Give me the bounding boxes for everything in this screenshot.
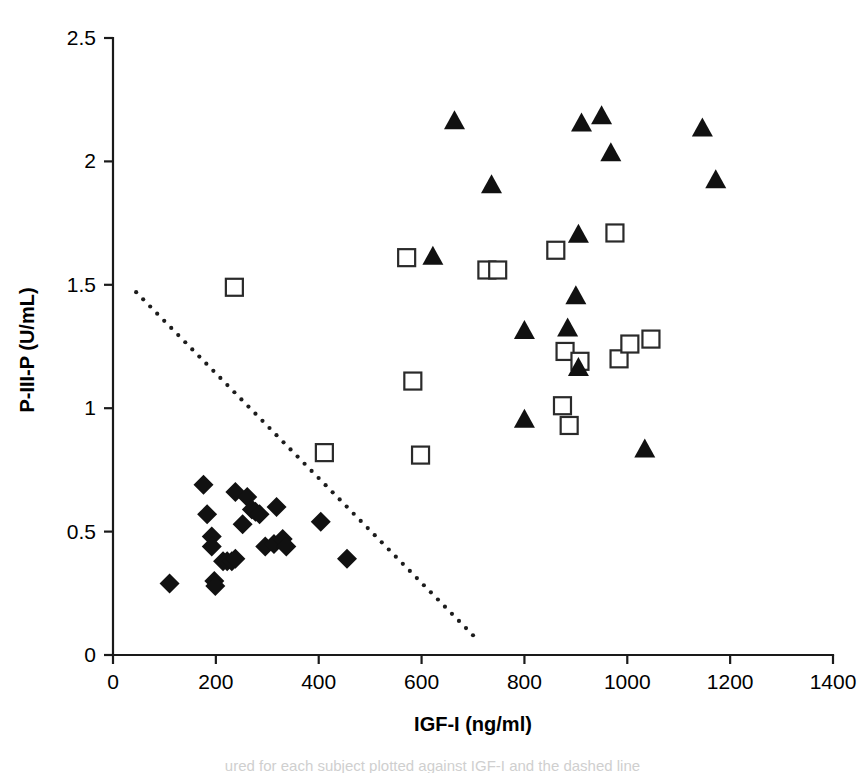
threshold-dot: [155, 312, 159, 316]
marker-square: [226, 279, 243, 296]
marker-diamond: [233, 514, 253, 534]
marker-triangle: [692, 118, 713, 137]
threshold-dot: [429, 590, 433, 594]
marker-diamond: [267, 497, 287, 517]
marker-triangle: [514, 320, 535, 339]
threshold-dot: [295, 454, 299, 458]
marker-triangle: [600, 142, 621, 161]
threshold-dot: [134, 290, 138, 294]
threshold-dot: [436, 597, 440, 601]
marker-square: [606, 224, 623, 241]
x-tick-labels: 0200400600800100012001400: [107, 670, 856, 693]
threshold-dot: [464, 626, 468, 630]
marker-triangle: [571, 113, 592, 132]
data-markers: [160, 105, 727, 596]
threshold-dot: [302, 462, 306, 466]
axis-ticks: [104, 38, 833, 664]
threshold-dot: [450, 612, 454, 616]
marker-triangle: [591, 105, 612, 124]
threshold-dot: [288, 447, 292, 451]
marker-square: [404, 373, 421, 390]
marker-triangle: [557, 317, 578, 336]
marker-triangle: [444, 110, 465, 129]
marker-square: [489, 261, 506, 278]
marker-square: [642, 331, 659, 348]
scatter-plot-figure: 0200400600800100012001400 00.511.522.5 I…: [0, 0, 865, 773]
marker-square: [412, 447, 429, 464]
threshold-dot: [415, 576, 419, 580]
x-tick-label: 1400: [810, 670, 857, 693]
y-tick-label: 0.5: [67, 520, 96, 543]
threshold-dot: [148, 304, 152, 308]
threshold-dot: [471, 633, 475, 637]
threshold-dot: [408, 569, 412, 573]
threshold-dot: [169, 326, 173, 330]
marker-triangle: [634, 438, 655, 457]
y-tick-label: 0: [84, 643, 96, 666]
threshold-dot: [380, 540, 384, 544]
plot-canvas: 0200400600800100012001400 00.511.522.5 I…: [0, 0, 865, 773]
threshold-dot: [338, 497, 342, 501]
threshold-dot: [190, 347, 194, 351]
marker-diamond: [311, 512, 331, 532]
threshold-dot: [260, 419, 264, 423]
threshold-dot: [183, 340, 187, 344]
x-tick-label: 800: [507, 670, 542, 693]
threshold-dot: [457, 619, 461, 623]
threshold-dot: [422, 583, 426, 587]
x-tick-label: 1000: [604, 670, 651, 693]
x-tick-label: 200: [198, 670, 233, 693]
marker-diamond: [160, 573, 180, 593]
threshold-dot: [366, 526, 370, 530]
y-axis-label: P-III-P (U/mL): [16, 287, 38, 412]
threshold-dot: [141, 297, 145, 301]
marker-triangle: [514, 409, 535, 428]
threshold-dot: [197, 354, 201, 358]
marker-triangle: [565, 285, 586, 304]
threshold-dot: [352, 512, 356, 516]
threshold-dot: [225, 383, 229, 387]
y-tick-label: 1.5: [67, 273, 96, 296]
x-axis-label: IGF-I (ng/ml): [414, 713, 532, 735]
threshold-dot: [345, 505, 349, 509]
threshold-dot: [211, 369, 215, 373]
threshold-dot: [281, 440, 285, 444]
marker-square: [398, 249, 415, 266]
x-tick-label: 400: [301, 670, 336, 693]
threshold-dot: [204, 362, 208, 366]
threshold-dot: [394, 555, 398, 559]
marker-triangle: [705, 169, 726, 188]
marker-triangle: [422, 246, 443, 265]
marker-square: [621, 336, 638, 353]
threshold-dot: [253, 412, 257, 416]
threshold-dot: [239, 397, 243, 401]
threshold-dot: [267, 426, 271, 430]
threshold-dot: [317, 476, 321, 480]
marker-square: [547, 242, 564, 259]
marker-diamond: [197, 504, 217, 524]
y-tick-label: 2: [84, 149, 96, 172]
threshold-dot: [359, 519, 363, 523]
threshold-dot: [401, 562, 405, 566]
marker-square: [561, 417, 578, 434]
x-tick-label: 1200: [707, 670, 754, 693]
threshold-dot: [309, 469, 313, 473]
threshold-dot: [443, 605, 447, 609]
threshold-dot: [232, 390, 236, 394]
marker-triangle: [481, 174, 502, 193]
threshold-dot: [331, 490, 335, 494]
threshold-dot: [373, 533, 377, 537]
y-tick-labels: 00.511.522.5: [67, 26, 96, 666]
x-tick-label: 0: [107, 670, 119, 693]
y-tick-label: 2.5: [67, 26, 96, 49]
threshold-dot: [387, 547, 391, 551]
x-tick-label: 600: [404, 670, 439, 693]
marker-triangle: [568, 224, 589, 243]
figure-caption-partial: ured for each subject plotted against IG…: [0, 751, 865, 773]
marker-diamond: [337, 549, 357, 569]
threshold-dot: [176, 333, 180, 337]
threshold-dot: [274, 433, 278, 437]
threshold-dot: [324, 483, 328, 487]
marker-diamond: [194, 475, 214, 495]
marker-square: [554, 397, 571, 414]
